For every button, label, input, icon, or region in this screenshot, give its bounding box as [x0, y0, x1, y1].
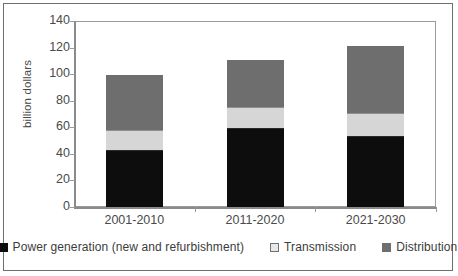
x-tick-mark — [436, 207, 437, 212]
y-tick-mark — [70, 74, 75, 75]
y-tick-mark — [70, 207, 75, 208]
y-tick-label: 40 — [30, 147, 70, 160]
x-tick-label: 2021-2030 — [315, 213, 436, 227]
bar-stack — [227, 21, 284, 207]
x-axis-line — [74, 207, 437, 209]
legend-label: Transmission — [284, 240, 356, 254]
bar-segment-distribution — [106, 75, 163, 129]
bar-segment-transmission — [227, 107, 284, 128]
y-tick-mark — [70, 48, 75, 49]
bar-segment-transmission — [347, 113, 404, 137]
y-tick-label: 140 — [30, 14, 70, 27]
legend-swatch-power-generation — [0, 243, 8, 252]
legend-label: Distribution — [396, 240, 457, 254]
legend-item[interactable]: Transmission — [270, 240, 356, 254]
y-tick-mark — [70, 127, 75, 128]
legend-item[interactable]: Distribution — [382, 240, 457, 254]
bar-segment-power-generation — [227, 129, 284, 207]
bar-segment-power-generation — [347, 137, 404, 207]
x-tick-label: 2011-2020 — [195, 213, 316, 227]
chart-legend: Power generation (new and refurbishment)… — [4, 232, 452, 262]
y-tick-mark — [70, 154, 75, 155]
bar-segment-power-generation — [106, 151, 163, 207]
bar-stack — [106, 21, 163, 207]
y-tick-label: 80 — [30, 94, 70, 107]
y-tick-label: 100 — [30, 67, 70, 80]
x-tick-mark — [195, 207, 196, 212]
y-tick-mark — [70, 180, 75, 181]
legend-swatch-distribution — [382, 243, 391, 252]
chart-figure: billion dollars 140120100806040200 2001-… — [3, 3, 453, 271]
bar-stack — [347, 21, 404, 207]
y-tick-mark — [70, 21, 75, 22]
bar-segment-distribution — [227, 60, 284, 108]
y-tick-label: 20 — [30, 173, 70, 186]
y-tick-label: 60 — [30, 120, 70, 133]
legend-label: Power generation (new and refurbishment) — [13, 240, 244, 254]
y-tick-label: 0 — [30, 200, 70, 213]
bar-segment-distribution — [347, 46, 404, 112]
legend-swatch-transmission — [270, 243, 279, 252]
y-tick-mark — [70, 101, 75, 102]
x-tick-mark — [315, 207, 316, 212]
y-tick-label: 120 — [30, 41, 70, 54]
x-tick-label: 2001-2010 — [74, 213, 195, 227]
bar-segment-transmission — [106, 130, 163, 151]
legend-item[interactable]: Power generation (new and refurbishment) — [0, 240, 244, 254]
